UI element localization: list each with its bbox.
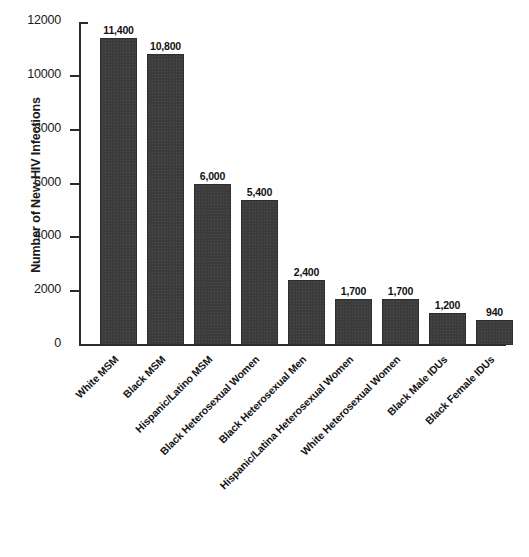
- bar-group: 6,000: [194, 22, 231, 345]
- plot-area: 11,40010,8006,0005,4002,4001,7001,7001,2…: [81, 22, 506, 345]
- bar-value-label: 940: [486, 306, 503, 318]
- bar-group: 5,400: [241, 22, 278, 345]
- bar-value-label: 10,800: [150, 40, 181, 52]
- bar-group: 2,400: [288, 22, 325, 345]
- bar-value-label: 5,400: [247, 186, 272, 198]
- bar-value-label: 1,700: [341, 285, 366, 297]
- bar-group: 1,200: [429, 22, 466, 345]
- bar-value-label: 2,400: [294, 266, 319, 278]
- y-tick-label-2000: 2000: [34, 282, 61, 296]
- bar[interactable]: [100, 38, 137, 345]
- x-axis-category-labels: White MSMBlack MSMHispanic/Latino MSMBla…: [0, 350, 529, 557]
- bar[interactable]: [429, 313, 466, 345]
- y-tick-label-8000: 8000: [34, 121, 61, 135]
- y-tick-label-4000: 4000: [34, 228, 61, 242]
- y-tick-2000: [70, 290, 81, 292]
- bar[interactable]: [382, 299, 419, 345]
- bar-group: 11,400: [100, 22, 137, 345]
- y-tick-10000: [70, 75, 81, 77]
- bar-group: 1,700: [382, 22, 419, 345]
- y-tick-label-0: 0: [54, 336, 61, 350]
- y-tick-6000: [70, 183, 81, 185]
- bar-value-label: 6,000: [200, 170, 225, 182]
- bar-group: 10,800: [147, 22, 184, 345]
- bar-value-label: 1,700: [388, 285, 413, 297]
- y-tick-label-10000: 10000: [27, 67, 61, 81]
- bar-value-label: 11,400: [103, 24, 133, 36]
- bar[interactable]: [194, 184, 231, 346]
- bar[interactable]: [288, 280, 325, 345]
- bar-group: 940: [476, 22, 513, 345]
- y-tick-label-6000: 6000: [34, 175, 61, 189]
- bar-value-label: 1,200: [435, 299, 460, 311]
- bar[interactable]: [335, 299, 372, 345]
- y-tick-label-12000: 12000: [27, 13, 61, 27]
- bar-chart: Number of New HIV Infections 02000400060…: [0, 0, 529, 557]
- bar[interactable]: [241, 200, 278, 345]
- bar-group: 1,700: [335, 22, 372, 345]
- y-tick-8000: [70, 129, 81, 131]
- bar[interactable]: [147, 54, 184, 345]
- bar[interactable]: [476, 320, 513, 345]
- y-tick-4000: [70, 236, 81, 238]
